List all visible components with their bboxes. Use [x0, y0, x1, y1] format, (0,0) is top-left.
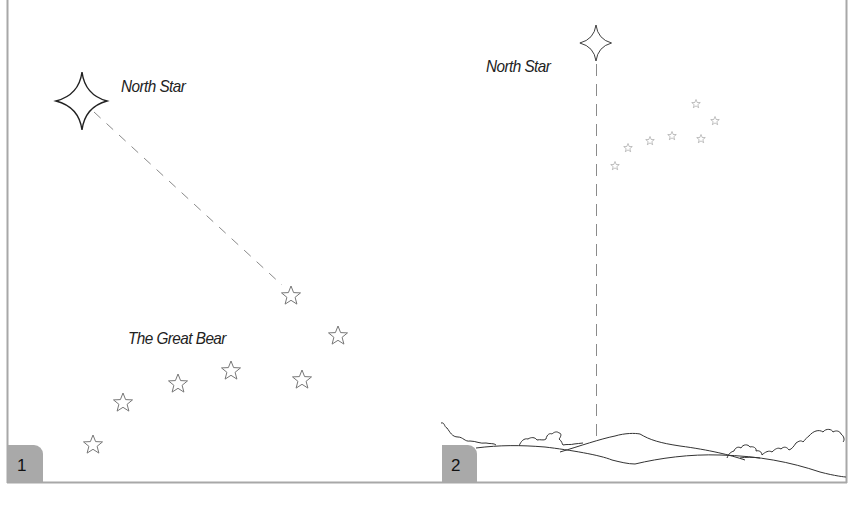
panel-2-number: 2 [451, 456, 460, 475]
panel-1-north-star-label: North Star [121, 78, 185, 95]
panel-1-great-bear-stars [84, 286, 348, 453]
panel-1-north-star-icon [56, 72, 107, 130]
panel-frame [7, 0, 847, 483]
panel-1-number: 1 [17, 456, 26, 475]
panel-2-number-badge: 2 [442, 445, 477, 482]
north-star-diagram: North Star The Great Bear North Star 1 2 [0, 0, 859, 508]
panel-2-north-star-icon [580, 25, 612, 61]
panel-2-great-bear-stars [611, 100, 720, 170]
panel-1-pointer-line [94, 112, 282, 285]
panel-1-number-badge: 1 [8, 445, 43, 482]
panel-1-great-bear-label: The Great Bear [128, 330, 226, 347]
panel-2-north-star-label: North Star [486, 58, 550, 75]
panel-2-horizon-landscape [441, 423, 846, 477]
